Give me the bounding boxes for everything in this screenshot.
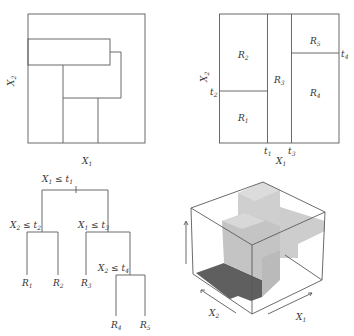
partition-box-1 — [28, 39, 110, 65]
threshold-t2-label: t2 — [210, 87, 218, 98]
x1-axis-label: X1 — [81, 156, 92, 167]
region-r4-label: R4 — [309, 88, 321, 99]
region-r3-label: R3 — [273, 75, 285, 86]
leaf-r4-label: R4 — [110, 320, 122, 331]
figure: X1 X2 R1 R2 R3 R4 R5 t1 t2 t3 t4 X1 X2 X… — [0, 0, 354, 336]
x2-axis-label: X2 — [208, 308, 219, 319]
leaf-r5-label: R5 — [139, 320, 151, 331]
deep-split-branch — [116, 275, 145, 316]
region-r2-label: R2 — [237, 50, 249, 61]
leaf-r2-label: R2 — [52, 278, 64, 289]
x2-axis-label: X2 — [199, 72, 210, 83]
x1-axis-label: X1 — [295, 312, 306, 323]
left-split-branch — [27, 232, 58, 275]
box-edge-left — [191, 208, 193, 274]
x2-axis-label: X2 — [6, 76, 17, 87]
panel-bottom-left-tree: X1 ≤ t1 X2 ≤ t2 X1 ≤ t3 X2 ≤ t4 R1 R2 R3… — [9, 174, 151, 331]
right-split-label: X1 ≤ t3 — [77, 220, 109, 231]
x1-axis-label: X1 — [275, 156, 286, 167]
root-split-label: X1 ≤ t1 — [41, 174, 73, 185]
panel-top-right: R1 R2 R3 R4 R5 t1 t2 t3 t4 X1 X2 — [199, 14, 349, 167]
surface-front-wall — [262, 250, 280, 297]
leaf-r1-label: R1 — [21, 278, 33, 289]
region-r1-label: R1 — [237, 113, 249, 124]
threshold-t3-label: t3 — [288, 146, 296, 157]
threshold-t4-label: t4 — [341, 49, 349, 60]
panel-bottom-right-3d: X2 X1 — [184, 182, 325, 323]
region-r5-label: R5 — [309, 36, 321, 47]
leaf-r3-label: R3 — [80, 278, 92, 289]
outer-box — [28, 14, 145, 143]
threshold-t1-label: t1 — [264, 146, 271, 157]
partition-box-2 — [63, 52, 121, 98]
left-split-label: X2 ≤ t2 — [9, 220, 41, 231]
deep-split-label: X2 ≤ t4 — [97, 263, 129, 274]
box-back-bottom-edge — [285, 255, 322, 280]
panel-top-left: X1 X2 — [6, 14, 145, 167]
